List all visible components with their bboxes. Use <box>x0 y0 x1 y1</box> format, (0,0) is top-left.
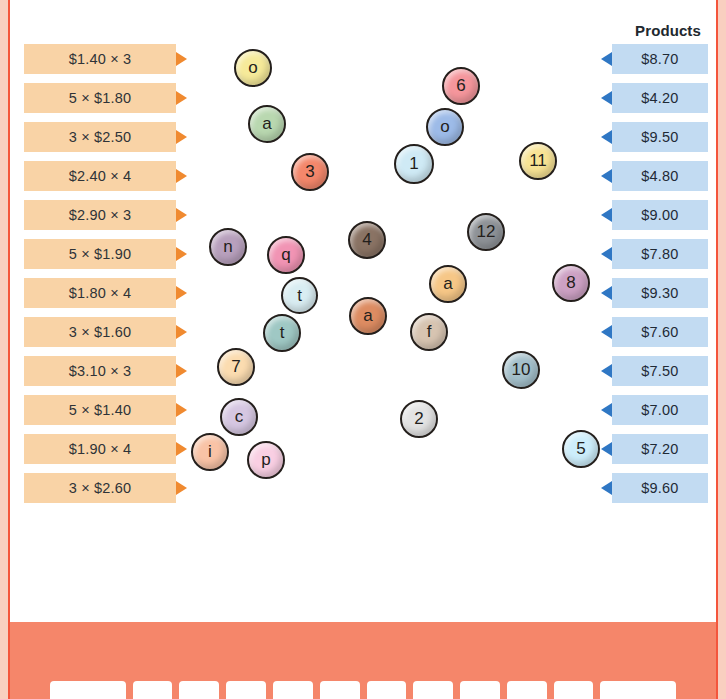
product-arrow-icon <box>601 52 612 66</box>
product-bar[interactable]: $8.70 <box>612 44 708 74</box>
product-arrow-icon <box>601 247 612 261</box>
factor-bar[interactable]: $2.40 × 4 <box>24 161 176 191</box>
factor-bar[interactable]: 3 × $1.60 <box>24 317 176 347</box>
game-token[interactable]: a <box>248 105 286 143</box>
product-arrow-icon <box>601 481 612 495</box>
frame-right-band <box>716 0 726 699</box>
game-token[interactable]: f <box>410 313 448 351</box>
onscreen-keyboard-row[interactable] <box>20 677 706 699</box>
factor-arrow-icon <box>176 481 187 495</box>
factor-bar[interactable]: 3 × $2.60 <box>24 473 176 503</box>
product-bar[interactable]: $9.60 <box>612 473 708 503</box>
factor-arrow-icon <box>176 91 187 105</box>
product-arrow-icon <box>601 130 612 144</box>
factor-arrow-icon <box>176 169 187 183</box>
game-token[interactable]: 2 <box>400 400 438 438</box>
product-arrow-icon <box>601 442 612 456</box>
keyboard-key[interactable] <box>367 681 407 699</box>
factor-bar[interactable]: 5 × $1.40 <box>24 395 176 425</box>
play-board: Products $1.40 × 35 × $1.803 × $2.50$2.4… <box>12 0 714 622</box>
keyboard-key[interactable] <box>179 681 219 699</box>
product-arrow-icon <box>601 208 612 222</box>
game-token[interactable]: c <box>220 398 258 436</box>
product-bar[interactable]: $9.30 <box>612 278 708 308</box>
product-bar[interactable]: $7.20 <box>612 434 708 464</box>
factor-bar[interactable]: $2.90 × 3 <box>24 200 176 230</box>
keyboard-key[interactable] <box>413 681 453 699</box>
game-token[interactable]: p <box>247 441 285 479</box>
product-arrow-icon <box>601 169 612 183</box>
keyboard-key[interactable] <box>460 681 500 699</box>
product-bar[interactable]: $9.50 <box>612 122 708 152</box>
factor-arrow-icon <box>176 286 187 300</box>
keyboard-key[interactable] <box>554 681 594 699</box>
factor-bar[interactable]: 5 × $1.80 <box>24 83 176 113</box>
game-token[interactable]: 4 <box>348 221 386 259</box>
game-token[interactable]: 6 <box>442 67 480 105</box>
keyboard-key[interactable] <box>226 681 266 699</box>
factor-bar[interactable]: 5 × $1.90 <box>24 239 176 269</box>
factor-arrow-icon <box>176 247 187 261</box>
keyboard-key[interactable] <box>320 681 360 699</box>
factor-arrow-icon <box>176 325 187 339</box>
game-token[interactable]: o <box>426 108 464 146</box>
keyboard-key[interactable] <box>507 681 547 699</box>
product-bar[interactable]: $4.80 <box>612 161 708 191</box>
product-bar[interactable]: $7.80 <box>612 239 708 269</box>
game-token[interactable]: 8 <box>552 264 590 302</box>
factor-arrow-icon <box>176 364 187 378</box>
factor-bar[interactable]: $3.10 × 3 <box>24 356 176 386</box>
game-token[interactable]: 11 <box>519 142 557 180</box>
keyboard-key[interactable] <box>273 681 313 699</box>
product-bar[interactable]: $7.50 <box>612 356 708 386</box>
product-arrow-icon <box>601 91 612 105</box>
game-token[interactable]: q <box>267 236 305 274</box>
keyboard-key[interactable] <box>600 681 676 699</box>
factor-bar[interactable]: $1.40 × 3 <box>24 44 176 74</box>
game-token[interactable]: a <box>349 297 387 335</box>
factor-arrow-icon <box>176 52 187 66</box>
game-token[interactable]: i <box>191 433 229 471</box>
game-token[interactable]: 1 <box>394 144 434 184</box>
game-token[interactable]: t <box>263 314 301 352</box>
product-bar[interactable]: $7.60 <box>612 317 708 347</box>
product-bar[interactable]: $7.00 <box>612 395 708 425</box>
keyboard-key[interactable] <box>50 681 126 699</box>
factor-arrow-icon <box>176 130 187 144</box>
product-arrow-icon <box>601 403 612 417</box>
factor-bar[interactable]: 3 × $2.50 <box>24 122 176 152</box>
factor-arrow-icon <box>176 208 187 222</box>
product-arrow-icon <box>601 286 612 300</box>
game-token[interactable]: o <box>234 49 272 87</box>
factor-bar[interactable]: $1.90 × 4 <box>24 434 176 464</box>
frame-left-band <box>0 0 10 699</box>
products-column-title: Products <box>620 22 716 39</box>
frame-bottom-band <box>10 622 716 699</box>
keyboard-key[interactable] <box>133 681 173 699</box>
factor-bar[interactable]: $1.80 × 4 <box>24 278 176 308</box>
product-arrow-icon <box>601 364 612 378</box>
game-screen: Products $1.40 × 35 × $1.803 × $2.50$2.4… <box>0 0 726 699</box>
product-arrow-icon <box>601 325 612 339</box>
game-token[interactable]: 5 <box>562 430 600 468</box>
game-token[interactable]: 12 <box>467 213 505 251</box>
game-token[interactable]: t <box>281 277 318 314</box>
product-bar[interactable]: $9.00 <box>612 200 708 230</box>
product-bar[interactable]: $4.20 <box>612 83 708 113</box>
game-token[interactable]: 7 <box>217 348 255 386</box>
game-token[interactable]: 10 <box>502 351 540 389</box>
factor-arrow-icon <box>176 442 187 456</box>
game-token[interactable]: 3 <box>291 153 329 191</box>
game-token[interactable]: n <box>209 228 247 266</box>
game-token[interactable]: a <box>429 265 467 303</box>
factor-arrow-icon <box>176 403 187 417</box>
